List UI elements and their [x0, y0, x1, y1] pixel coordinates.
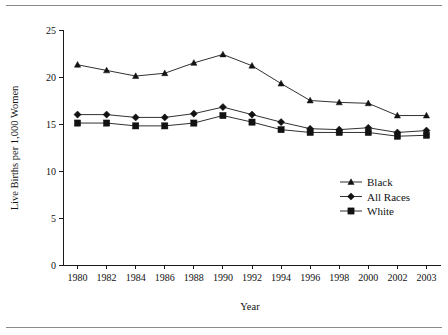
data-point-square	[336, 129, 342, 135]
x-tick-label: 1980	[68, 272, 88, 283]
x-tick-label: 1988	[184, 272, 204, 283]
x-tick-label: 1982	[97, 272, 117, 283]
data-point-square	[423, 132, 429, 138]
x-tick-label: 1986	[155, 272, 175, 283]
y-axis-ticks	[59, 30, 63, 265]
data-point-diamond	[74, 111, 81, 118]
data-point-diamond	[190, 110, 197, 117]
data-point-square	[191, 120, 197, 126]
x-tick-label: 1992	[242, 272, 262, 283]
legend-label: All Races	[367, 191, 410, 203]
data-point-square	[74, 120, 80, 126]
x-tick-label: 2003	[416, 272, 436, 283]
x-axis-ticks	[78, 265, 427, 269]
legend-label: Black	[367, 176, 393, 188]
x-tick-label: 1998	[329, 272, 349, 283]
data-point-square	[133, 123, 139, 129]
data-point-square	[348, 208, 354, 214]
figure-container: 0510152025 19801982198419861988199019921…	[0, 0, 448, 335]
data-point-triangle	[220, 51, 226, 57]
data-point-triangle	[74, 62, 80, 68]
y-axis-tick-labels: 0510152025	[46, 25, 56, 271]
legend-item-all-races[interactable]: All Races	[340, 191, 410, 203]
x-tick-label: 1994	[271, 272, 291, 283]
series-line	[78, 116, 427, 137]
y-tick-label: 10	[46, 166, 56, 177]
data-point-diamond	[347, 193, 354, 200]
x-axis-title: Year	[240, 301, 260, 312]
data-point-square	[394, 133, 400, 139]
legend-item-black[interactable]: Black	[340, 176, 393, 188]
data-point-triangle	[307, 97, 313, 103]
data-point-diamond	[219, 104, 226, 111]
axes: 0510152025 19801982198419861988199019921…	[46, 25, 441, 283]
y-tick-label: 15	[46, 119, 56, 130]
x-tick-label: 2002	[387, 272, 407, 283]
line-chart: 0510152025 19801982198419861988199019921…	[0, 0, 448, 335]
data-point-square	[104, 120, 110, 126]
data-point-square	[278, 127, 284, 133]
x-tick-label: 1990	[213, 272, 233, 283]
data-point-square	[220, 112, 226, 118]
data-point-diamond	[103, 111, 110, 118]
x-tick-label: 1984	[126, 272, 146, 283]
data-point-triangle	[278, 80, 284, 86]
data-point-diamond	[132, 114, 139, 121]
y-tick-label: 0	[51, 260, 56, 271]
x-tick-label: 1996	[300, 272, 320, 283]
x-axis-tick-labels: 1980198219841986198819901992199419961998…	[68, 272, 437, 283]
x-tick-label: 2000	[358, 272, 378, 283]
y-tick-label: 5	[51, 213, 56, 224]
data-series-group	[74, 51, 430, 139]
data-point-square	[307, 129, 313, 135]
chart-legend: BlackAll RacesWhite	[340, 176, 410, 217]
data-point-square	[249, 119, 255, 125]
data-point-square	[365, 129, 371, 135]
data-point-diamond	[278, 119, 285, 126]
y-tick-label: 20	[46, 72, 56, 83]
data-point-diamond	[248, 111, 255, 118]
legend-label: White	[367, 205, 394, 217]
series-black	[74, 51, 429, 118]
data-point-diamond	[161, 114, 168, 121]
y-axis-title: Live Births per 1,000 Women	[9, 85, 20, 210]
data-point-square	[162, 123, 168, 129]
legend-item-white[interactable]: White	[340, 205, 394, 217]
y-tick-label: 25	[46, 25, 56, 36]
